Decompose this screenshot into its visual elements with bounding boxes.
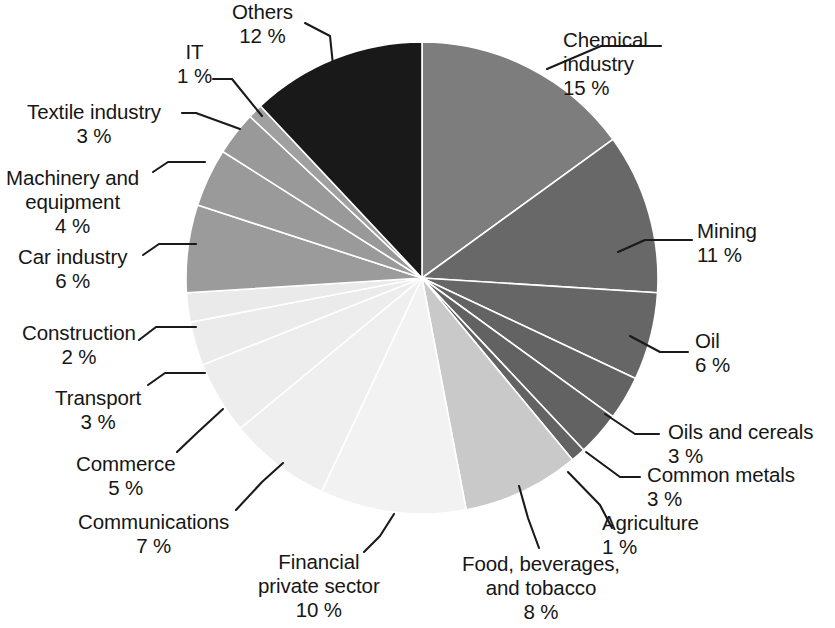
callout-percent-machinery: 4 % (6, 214, 139, 238)
leader-line-others (305, 23, 333, 65)
callout-construction: Construction2 % (22, 321, 136, 369)
callout-percent-textile-industry: 3 % (27, 124, 161, 148)
callout-percent-construction: 2 % (22, 345, 136, 369)
callout-percent-food-beverages: 8 % (462, 600, 620, 624)
callout-label-financial: Financial private sector (258, 550, 380, 598)
callout-label-textile-industry: Textile industry (27, 100, 161, 124)
leader-line-construction (139, 327, 196, 340)
callout-label-chemical-industry: Chemical industry (563, 28, 648, 76)
callout-percent-oil: 6 % (695, 353, 730, 377)
callout-percent-mining: 11 % (697, 243, 757, 267)
callout-percent-communications: 7 % (78, 534, 229, 558)
callout-mining: Mining11 % (697, 219, 757, 267)
callout-percent-common-metals: 3 % (647, 487, 795, 511)
callout-it: IT1 % (177, 40, 212, 88)
callout-oils-and-cereals: Oils and cereals3 % (668, 420, 813, 468)
leader-line-transport (148, 373, 205, 385)
leader-line-financial (364, 514, 394, 552)
leader-line-communications (236, 463, 283, 510)
callout-others: Others12 % (232, 0, 293, 48)
callout-percent-commerce: 5 % (76, 476, 175, 500)
leader-line-it (213, 79, 262, 116)
callout-label-communications: Communications (78, 510, 229, 534)
callout-oil: Oil6 % (695, 329, 730, 377)
callout-label-oils-and-cereals: Oils and cereals (668, 420, 813, 444)
callout-label-commerce: Commerce (76, 452, 175, 476)
callout-food-beverages: Food, beverages, and tobacco8 % (462, 552, 620, 623)
callout-percent-financial: 10 % (258, 598, 380, 622)
leader-line-common-metals (586, 452, 640, 477)
callout-car-industry: Car industry6 % (18, 245, 127, 293)
callout-label-mining: Mining (697, 219, 757, 243)
callout-label-agriculture: Agriculture (602, 511, 699, 535)
callout-label-machinery: Machinery and equipment (6, 166, 139, 214)
callout-label-common-metals: Common metals (647, 463, 795, 487)
callout-label-transport: Transport (55, 386, 141, 410)
callout-percent-it: 1 % (177, 64, 212, 88)
leader-line-textile-industry (182, 113, 240, 129)
leader-line-commerce (177, 409, 223, 452)
callout-label-construction: Construction (22, 321, 136, 345)
callout-label-car-industry: Car industry (18, 245, 127, 269)
callout-percent-others: 12 % (232, 24, 293, 48)
callout-textile-industry: Textile industry3 % (27, 100, 161, 148)
pie-chart-figure: Chemical industry15 %Mining11 %Oil6 %Oil… (0, 0, 835, 628)
callout-commerce: Commerce5 % (76, 452, 175, 500)
callout-label-oil: Oil (695, 329, 730, 353)
callout-percent-car-industry: 6 % (18, 269, 127, 293)
callout-chemical-industry: Chemical industry15 % (563, 28, 648, 99)
leader-line-food-beverages (519, 486, 539, 548)
callout-communications: Communications7 % (78, 510, 229, 558)
callout-transport: Transport3 % (55, 386, 141, 434)
callout-percent-transport: 3 % (55, 410, 141, 434)
leader-line-machinery (153, 162, 205, 172)
callout-common-metals: Common metals3 % (647, 463, 795, 511)
callout-financial: Financial private sector10 % (258, 550, 380, 621)
callout-label-others: Others (232, 0, 293, 24)
callout-percent-chemical-industry: 15 % (563, 76, 648, 100)
pie-slices-group (186, 42, 658, 514)
callout-label-it: IT (177, 40, 212, 64)
callout-label-food-beverages: Food, beverages, and tobacco (462, 552, 620, 600)
callout-machinery: Machinery and equipment4 % (6, 166, 139, 237)
